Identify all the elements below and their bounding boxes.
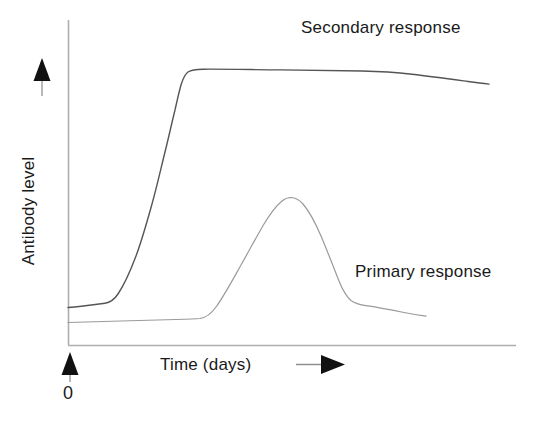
primary-response-label: Primary response bbox=[355, 262, 491, 282]
y-axis-arrow-icon bbox=[34, 58, 51, 96]
origin-label: 0 bbox=[63, 383, 73, 404]
x-axis-arrow-icon bbox=[296, 355, 345, 374]
antibody-response-chart: Secondary response Primary response Time… bbox=[0, 0, 553, 441]
x-axis-label: Time (days) bbox=[160, 355, 251, 375]
primary-response-curve bbox=[68, 198, 426, 323]
y-axis-label: Antibody level bbox=[19, 151, 39, 271]
origin-arrow-icon bbox=[62, 352, 79, 382]
secondary-response-label: Secondary response bbox=[301, 18, 461, 38]
chart-canvas bbox=[0, 0, 553, 441]
